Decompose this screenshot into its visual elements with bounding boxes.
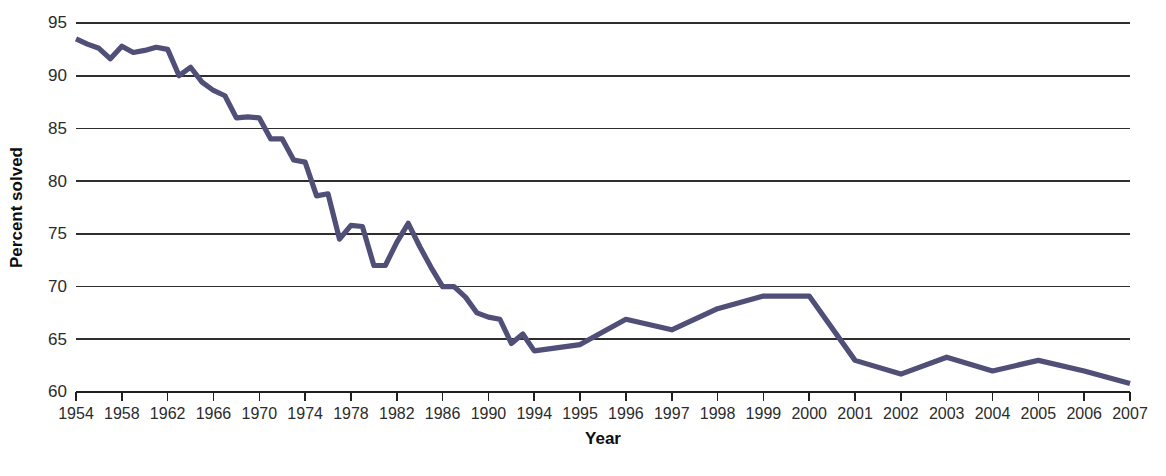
y-axis-title: Percent solved — [7, 147, 26, 268]
x-tick-label-1998: 1998 — [700, 405, 736, 422]
y-tick-label-95: 95 — [48, 13, 67, 32]
x-tick-label-1978: 1978 — [333, 405, 369, 422]
x-tick-label-1970: 1970 — [242, 405, 278, 422]
y-tick-labels: 9590858075706560 — [48, 13, 67, 401]
x-tick-label-1994: 1994 — [516, 405, 552, 422]
x-tick-label-1996: 1996 — [608, 405, 644, 422]
x-axis-title: Year — [585, 429, 621, 448]
x-tick-label-1997: 1997 — [654, 405, 690, 422]
x-tick-label-1958: 1958 — [104, 405, 140, 422]
x-tick-label-2000: 2000 — [791, 405, 827, 422]
gridlines — [76, 23, 1130, 339]
x-tick-label-2006: 2006 — [1066, 405, 1102, 422]
y-tick-label-65: 65 — [48, 330, 67, 349]
line-chart: 9590858075706560 19541958196219661970197… — [0, 0, 1166, 476]
series-percent-solved — [76, 39, 1130, 384]
y-tick-label-70: 70 — [48, 277, 67, 296]
x-tick-label-2003: 2003 — [929, 405, 965, 422]
x-tick-label-2001: 2001 — [837, 405, 873, 422]
x-tick-label-1974: 1974 — [287, 405, 323, 422]
x-tick-label-1990: 1990 — [471, 405, 507, 422]
x-tick-labels: 1954195819621966197019741978198219861990… — [58, 405, 1148, 422]
x-tick-label-1982: 1982 — [379, 405, 415, 422]
x-tick-label-1986: 1986 — [425, 405, 461, 422]
x-tick-label-2002: 2002 — [883, 405, 919, 422]
x-tick-label-2007: 2007 — [1112, 405, 1148, 422]
x-tick-label-1954: 1954 — [58, 405, 94, 422]
y-tick-label-80: 80 — [48, 172, 67, 191]
x-tickmarks — [76, 392, 1130, 401]
x-tick-label-2004: 2004 — [975, 405, 1011, 422]
y-tick-label-60: 60 — [48, 382, 67, 401]
x-tick-label-1966: 1966 — [196, 405, 232, 422]
y-tick-label-75: 75 — [48, 224, 67, 243]
x-tick-label-1962: 1962 — [150, 405, 186, 422]
x-tick-label-1999: 1999 — [746, 405, 782, 422]
chart-container: 9590858075706560 19541958196219661970197… — [0, 0, 1166, 476]
y-tick-label-85: 85 — [48, 119, 67, 138]
x-tick-label-2005: 2005 — [1021, 405, 1057, 422]
y-tick-label-90: 90 — [48, 66, 67, 85]
data-series-line — [76, 39, 1130, 384]
x-tick-label-1995: 1995 — [562, 405, 598, 422]
